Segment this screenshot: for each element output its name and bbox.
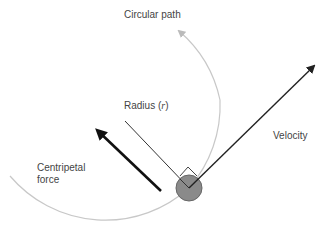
diagram-canvas bbox=[0, 0, 327, 233]
radius-line bbox=[125, 121, 189, 188]
centripetal-force-label: Centripetal force bbox=[37, 162, 85, 186]
centripetal-force-label-line1: Centripetal bbox=[37, 162, 85, 174]
centripetal-force-label-line2: force bbox=[37, 174, 85, 186]
velocity-label: Velocity bbox=[273, 130, 307, 142]
radius-label-text: Radius ( bbox=[124, 100, 161, 111]
circular-path-label: Circular path bbox=[124, 9, 181, 21]
radius-label: Radius (r) bbox=[124, 100, 169, 112]
velocity-arrow bbox=[189, 66, 314, 188]
radius-label-close: ) bbox=[165, 100, 168, 111]
centripetal-force-arrow bbox=[98, 131, 161, 191]
